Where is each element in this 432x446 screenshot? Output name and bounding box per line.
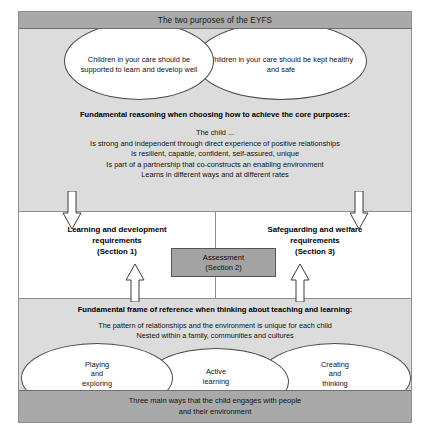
purpose-ellipse-learn: Children in your care should be supporte… — [64, 29, 214, 100]
way-line: learning — [203, 377, 229, 386]
up-arrow-left — [125, 262, 145, 302]
requirements-left-line: requirements — [37, 235, 197, 246]
purpose-ellipse-learn-label: Children in your care should be supporte… — [65, 47, 213, 74]
assessment-section: (Section 2) — [205, 263, 242, 273]
ways-footer-line: Three main ways that the child engages w… — [129, 396, 302, 407]
purpose-ellipse-healthy-label: Children in your care should be kept hea… — [196, 47, 366, 74]
diagram-title-bar: The two purposes of the EYFS — [19, 12, 411, 29]
way-line: exploring — [82, 379, 112, 388]
way-ellipse-creating-label: Creating and thinking — [315, 360, 355, 392]
frame-statements: The pattern of relationships and the env… — [19, 321, 411, 342]
eyfs-diagram: The two purposes of the EYFS Children in… — [18, 11, 412, 423]
reasoning-heading: Fundamental reasoning when choosing how … — [19, 110, 411, 119]
ways-footer-line: and their environment — [179, 407, 252, 418]
child-statement: Is part of a partnership that co-constru… — [19, 160, 411, 171]
child-statement: Is strong and independent through direct… — [19, 139, 411, 150]
assessment-title: Assessment — [203, 253, 244, 263]
frame-band: Fundamental frame of reference when thin… — [19, 299, 411, 392]
child-statement: Learns in different ways and at differen… — [19, 170, 411, 181]
child-lead: The child ... — [19, 128, 411, 139]
frame-statement: The pattern of relationships and the env… — [19, 321, 411, 331]
child-statement: Is resilient, capable, confident, self-a… — [19, 149, 411, 160]
way-line: Playing — [85, 360, 109, 369]
requirements-right-line: Safeguarding and welfare — [235, 224, 395, 235]
way-line: Creating — [321, 360, 349, 369]
way-line: Active — [206, 367, 226, 376]
assessment-box: Assessment (Section 2) — [171, 248, 276, 277]
way-ellipse-active-label: Active learning — [197, 367, 235, 392]
down-arrow-left — [62, 191, 82, 231]
frame-heading: Fundamental frame of reference when thin… — [19, 305, 411, 314]
diagram-title: The two purposes of the EYFS — [158, 16, 272, 25]
way-ellipse-playing-label: Playing and exploring — [76, 360, 118, 392]
way-ellipse-playing: Playing and exploring — [21, 343, 173, 392]
requirements-left-line: Learning and development — [37, 224, 197, 235]
up-arrow-right — [290, 262, 310, 302]
frame-statement: Nested within a family, communities and … — [19, 331, 411, 341]
ways-footer-bar: Three main ways that the child engages w… — [19, 390, 411, 422]
down-arrow-right — [349, 191, 369, 231]
child-statements: The child ... Is strong and independent … — [19, 128, 411, 181]
requirements-right-line: requirements — [235, 235, 395, 246]
way-line: thinking — [322, 379, 347, 388]
way-line: and — [91, 369, 103, 378]
way-line: and — [329, 369, 341, 378]
purpose-ellipse-healthy: Children in your care should be kept hea… — [195, 29, 367, 100]
purposes-band: Children in your care should be supporte… — [19, 29, 411, 211]
